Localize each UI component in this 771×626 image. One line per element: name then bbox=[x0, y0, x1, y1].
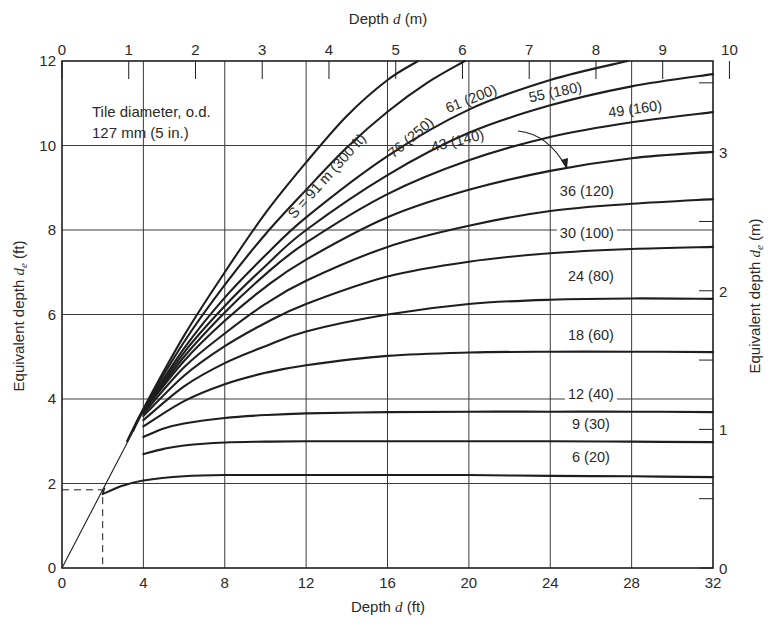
x2-tick-label: 0 bbox=[58, 41, 66, 58]
x-tick-label: 24 bbox=[542, 574, 559, 591]
curve-label: 49 (160) bbox=[607, 97, 663, 120]
y2-axis-title: Equivalent depth de (m) bbox=[746, 219, 765, 374]
x2-tick-label: 8 bbox=[592, 41, 600, 58]
y-tick-label: 6 bbox=[48, 306, 56, 323]
curve-label: 24 (80) bbox=[568, 268, 614, 284]
curve-label: 55 (180) bbox=[527, 79, 583, 106]
x-axis-title: Depth d (ft) bbox=[351, 598, 425, 615]
x2-tick-label: 6 bbox=[458, 41, 466, 58]
curve-label: 6 (20) bbox=[572, 449, 610, 465]
y-tick-label: 10 bbox=[39, 137, 56, 154]
curve-60ft bbox=[143, 352, 713, 427]
curve-40ft bbox=[143, 412, 713, 437]
curve-label: 76 (250) bbox=[385, 114, 437, 161]
curve-label: 43 (140) bbox=[429, 126, 485, 155]
curve-label: S = 91 m (300 ft) bbox=[285, 130, 369, 221]
y2-tick-label: 3 bbox=[719, 144, 727, 161]
curve-label: 61 (200) bbox=[443, 81, 499, 116]
x-axis-ticks-ft: 048121620242832 bbox=[58, 574, 722, 591]
x2-tick-label: 9 bbox=[659, 41, 667, 58]
x-tick-label: 4 bbox=[139, 574, 147, 591]
y-tick-label: 2 bbox=[48, 475, 56, 492]
drain-spacing-chart: 048121620242832 024681012 012345678910 0… bbox=[0, 0, 771, 626]
y2-tick-label: 0 bbox=[719, 560, 727, 577]
x2-tick-label: 10 bbox=[721, 41, 738, 58]
y-tick-label: 12 bbox=[39, 52, 56, 69]
curve-label: 18 (60) bbox=[568, 327, 614, 343]
y-tick-label: 0 bbox=[48, 559, 56, 576]
x2-tick-label: 5 bbox=[392, 41, 400, 58]
x-tick-label: 28 bbox=[623, 574, 640, 591]
curve-labels: 6 (20)9 (30)12 (40)18 (60)24 (80)30 (100… bbox=[285, 79, 663, 466]
x2-tick-label: 4 bbox=[325, 41, 333, 58]
x-tick-label: 0 bbox=[58, 574, 66, 591]
x2-tick-label: 7 bbox=[525, 41, 533, 58]
spacing-curves bbox=[103, 61, 713, 494]
x2-tick-label: 1 bbox=[125, 41, 133, 58]
y-axis-title: Equivalent depth de (ft) bbox=[10, 241, 29, 392]
curve-160ft bbox=[143, 112, 713, 411]
x-tick-label: 16 bbox=[379, 574, 396, 591]
x-tick-label: 8 bbox=[221, 574, 229, 591]
y-axis-ticks-ft: 024681012 bbox=[39, 52, 56, 576]
y2-tick-label: 1 bbox=[719, 421, 727, 438]
x-tick-label: 12 bbox=[298, 574, 315, 591]
curve-30ft bbox=[143, 441, 713, 454]
y-tick-label: 4 bbox=[48, 390, 56, 407]
curve-label: 9 (30) bbox=[572, 416, 610, 432]
curve-120ft bbox=[143, 199, 713, 414]
curve-140ft bbox=[143, 152, 713, 412]
label-arrow-43-140 bbox=[518, 131, 566, 167]
tile-diameter-note-line2: 127 mm (5 in.) bbox=[92, 124, 189, 141]
x2-tick-label: 2 bbox=[191, 41, 199, 58]
curve-label: 30 (100) bbox=[560, 225, 614, 241]
tile-diameter-note-line1: Tile diameter, o.d. bbox=[92, 103, 211, 120]
curve-label: 36 (120) bbox=[560, 183, 614, 199]
y-tick-label: 8 bbox=[48, 221, 56, 238]
x2-axis-title: Depth d (m) bbox=[349, 10, 427, 27]
curve-20ft bbox=[103, 475, 713, 494]
y2-tick-label: 2 bbox=[719, 283, 727, 300]
x-tick-label: 20 bbox=[461, 574, 478, 591]
x2-tick-label: 3 bbox=[258, 41, 266, 58]
curve-label: 12 (40) bbox=[568, 386, 614, 402]
